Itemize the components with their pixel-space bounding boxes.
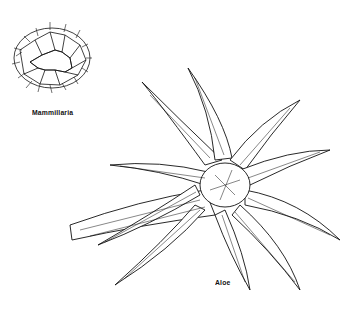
- aloe-drawing: [0, 0, 350, 309]
- aloe-label: Aloe: [215, 278, 230, 287]
- illustration: Mammillaria Aloe: [0, 0, 350, 309]
